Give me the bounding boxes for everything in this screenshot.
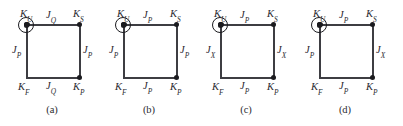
panel-b: KU KS KF KP JP JP JP JP (b) (99, 0, 199, 126)
panel-caption: (c) (196, 104, 296, 115)
plaquette-square-a: KU KS KF KP JQ JP JQ JP (26, 24, 80, 78)
edge-bottom (319, 77, 373, 79)
figure-panels-container: KU KS KF KP JQ JP JQ JP (a) KU KS KF (0, 0, 403, 126)
panel-c: KU KS KF KP JP JX JP JX (c) (196, 0, 296, 126)
label-node-upper-right: KS (73, 9, 84, 20)
edge-right (176, 24, 178, 78)
label-node-lower-left: KF (115, 82, 127, 93)
label-edge-top: JP (143, 10, 152, 21)
label-edge-left: JP (12, 45, 21, 56)
plaquette-square-c: KU KS KF KP JP JX JP JX (220, 24, 274, 78)
label-node-upper-right: KS (170, 9, 181, 20)
node-lower-right (271, 75, 276, 80)
node-lower-right (370, 75, 375, 80)
panel-caption: (d) (295, 104, 395, 115)
label-node-upper-right: KS (267, 9, 278, 20)
edge-right (372, 24, 374, 78)
plaquette-square-d: KU KS KF KP JP JX JP JP (319, 24, 373, 78)
label-node-upper-left: KU (214, 9, 226, 20)
edge-right (273, 24, 275, 78)
panel-caption: (a) (2, 104, 102, 115)
label-node-lower-left: KF (311, 82, 323, 93)
edge-bottom (123, 77, 177, 79)
label-node-lower-right: KP (73, 82, 85, 93)
label-edge-bottom: JP (240, 81, 249, 92)
label-node-lower-right: KP (267, 82, 279, 93)
label-edge-left: JX (206, 45, 215, 56)
label-edge-right: JP (83, 45, 92, 56)
panel-d: KU KS KF KP JP JX JP JP (d) (295, 0, 395, 126)
node-lower-right (77, 75, 82, 80)
label-node-upper-left: KU (20, 9, 32, 20)
label-edge-top: JQ (46, 10, 56, 21)
label-node-lower-left: KF (212, 82, 224, 93)
label-edge-bottom: JP (339, 81, 348, 92)
panel-a: KU KS KF KP JQ JP JQ JP (a) (2, 0, 102, 126)
edge-bottom (220, 77, 274, 79)
panel-caption: (b) (99, 104, 199, 115)
label-node-lower-left: KF (18, 82, 30, 93)
label-node-upper-right: KS (366, 9, 377, 20)
label-node-upper-left: KU (117, 9, 129, 20)
edge-bottom (26, 77, 80, 79)
label-node-lower-right: KP (366, 82, 378, 93)
label-edge-left: JP (109, 45, 118, 56)
label-edge-bottom: JQ (46, 81, 56, 92)
node-lower-right (174, 75, 179, 80)
label-edge-bottom: JP (143, 81, 152, 92)
plaquette-square-b: KU KS KF KP JP JP JP JP (123, 24, 177, 78)
label-edge-right: JX (277, 45, 286, 56)
label-edge-left: JP (305, 45, 314, 56)
label-node-lower-right: KP (170, 82, 182, 93)
edge-right (79, 24, 81, 78)
label-edge-top: JP (339, 10, 348, 21)
label-edge-right: JP (180, 45, 189, 56)
label-edge-top: JP (240, 10, 249, 21)
label-node-upper-left: KU (313, 9, 325, 20)
label-edge-right: JX (376, 45, 385, 56)
